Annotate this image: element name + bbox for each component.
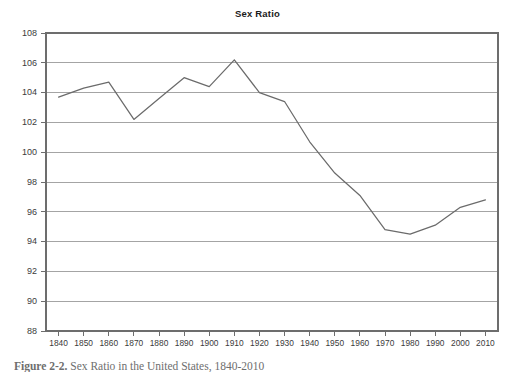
x-axis-tick-label: 1840	[49, 338, 68, 348]
x-axis-tick-label: 2000	[451, 338, 470, 348]
y-axis-tick-label: 108	[22, 28, 37, 38]
x-axis-tick-label: 1900	[200, 338, 219, 348]
x-axis-tick-label: 1990	[426, 338, 445, 348]
y-axis-labels-group: 108106104102100989694929088	[22, 28, 37, 336]
x-axis-tick-label: 1940	[300, 338, 319, 348]
y-axis-tick-label: 102	[22, 117, 37, 127]
y-axis-tick-label: 100	[22, 147, 37, 157]
figure-caption-number: Figure 2-2.	[14, 360, 67, 372]
x-axis-tick-label: 1910	[225, 338, 244, 348]
y-axis-tick-label: 92	[27, 266, 37, 276]
y-axis-tick-label: 106	[22, 58, 37, 68]
figure-container: Sex Ratio 108106104102100989694929088 18…	[0, 0, 515, 372]
x-axis-tick-label: 1930	[275, 338, 294, 348]
series-line-sex-ratio	[59, 60, 486, 234]
y-axis-tick-label: 104	[22, 87, 37, 97]
x-axis-tick-label: 2010	[476, 338, 495, 348]
gridlines-group	[46, 63, 498, 301]
y-axis-tick-label: 90	[27, 296, 37, 306]
x-axis-tick-label: 1890	[175, 338, 194, 348]
data-series-group	[59, 60, 486, 234]
y-axis-tick-label: 96	[27, 207, 37, 217]
plot-area: 108106104102100989694929088 184018501860…	[0, 0, 515, 372]
x-axis-tick-label: 1850	[74, 338, 93, 348]
x-axis-tick-label: 1920	[250, 338, 269, 348]
y-axis-tick-label: 88	[27, 326, 37, 336]
figure-caption-text: Sex Ratio in the United States, 1840-201…	[70, 360, 264, 372]
x-axis-tick-label: 1970	[376, 338, 395, 348]
figure-caption: Figure 2-2. Sex Ratio in the United Stat…	[14, 360, 504, 372]
y-axis-tick-label: 98	[27, 177, 37, 187]
x-axis-tick-label: 1860	[99, 338, 118, 348]
y-axis-ticks-group	[41, 33, 46, 331]
line-chart-svg: 108106104102100989694929088 184018501860…	[0, 0, 515, 372]
x-axis-tick-label: 1870	[125, 338, 144, 348]
x-axis-labels-group: 1840185018601870188018901900191019201930…	[49, 338, 495, 348]
x-axis-ticks-group	[59, 331, 486, 336]
x-axis-tick-label: 1960	[351, 338, 370, 348]
x-axis-tick-label: 1950	[325, 338, 344, 348]
y-axis-tick-label: 94	[27, 236, 37, 246]
x-axis-tick-label: 1880	[150, 338, 169, 348]
x-axis-tick-label: 1980	[401, 338, 420, 348]
